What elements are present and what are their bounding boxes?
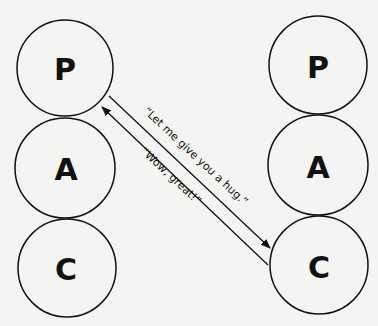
right-parent-label: P [307,50,329,85]
left-adult-label: A [54,152,78,187]
stimulus-arrow [109,96,270,248]
right-person-ego-states: P A C [268,16,368,314]
left-person-ego-states: P A C [15,20,116,317]
right-adult-label: A [306,150,330,185]
right-child-label: C [308,250,330,285]
transaction-diagram: P A C P A C “Let me give you a hug.” “Wo… [0,0,378,326]
left-child-label: C [55,252,77,287]
left-parent-label: P [54,52,76,87]
